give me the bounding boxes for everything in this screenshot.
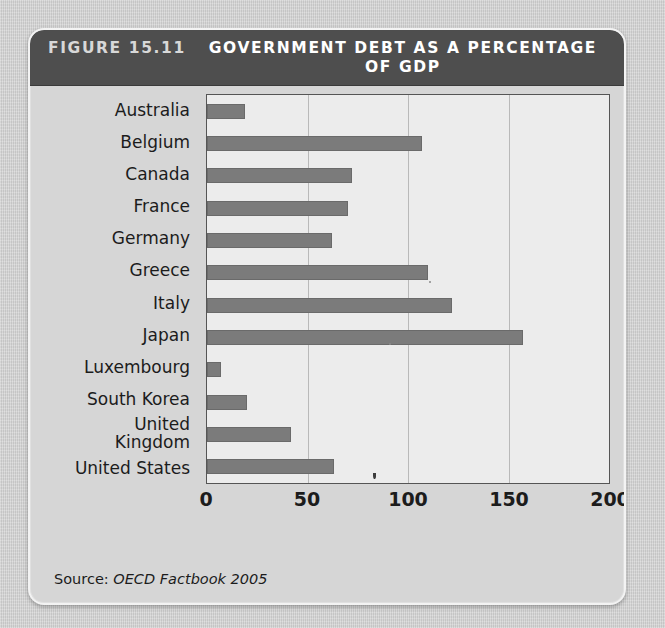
bar-row [207, 354, 609, 386]
scan-speck-dot-2 [389, 343, 391, 345]
figure-title: GOVERNMENT DEBT AS A PERCENTAGE OF GDP [200, 39, 606, 78]
bar-chart: AustraliaBelgiumCanadaFranceGermanyGreec… [30, 94, 624, 524]
bar [207, 265, 428, 280]
category-label: Australia [30, 94, 202, 126]
bar [207, 168, 352, 183]
x-axis: 050100150200 [206, 486, 610, 518]
bar-row [207, 95, 609, 127]
bar [207, 330, 523, 345]
bar-row [207, 224, 609, 256]
category-label: Belgium [30, 126, 202, 158]
category-label: United Kingdom [30, 415, 202, 452]
category-label: Japan [30, 319, 202, 351]
bar [207, 233, 332, 248]
source-note: Source: OECD Factbook 2005 [54, 571, 268, 587]
bar [207, 459, 334, 474]
source-prefix: Source: [54, 571, 109, 587]
bar-row [207, 451, 609, 483]
figure-title-bar: FIGURE 15.11 GOVERNMENT DEBT AS A PERCEN… [30, 30, 624, 86]
category-label: Canada [30, 158, 202, 190]
category-label-column: AustraliaBelgiumCanadaFranceGermanyGreec… [30, 94, 202, 484]
figure-number-label: FIGURE 15.11 [48, 39, 186, 57]
bar-row [207, 127, 609, 159]
figure-panel: FIGURE 15.11 GOVERNMENT DEBT AS A PERCEN… [28, 28, 626, 605]
bar [207, 104, 245, 119]
bar-row [207, 192, 609, 224]
x-tick-label-50: 50 [294, 488, 320, 510]
bar-row [207, 257, 609, 289]
x-tick-label-100: 100 [388, 488, 428, 510]
bar [207, 427, 291, 442]
bar-row [207, 386, 609, 418]
x-tick-label-0: 0 [199, 488, 212, 510]
bar [207, 136, 422, 151]
category-label: France [30, 190, 202, 222]
x-tick-label-150: 150 [489, 488, 529, 510]
bar-row [207, 289, 609, 321]
source-citation: OECD Factbook 2005 [113, 571, 267, 587]
category-label: Germany [30, 222, 202, 254]
x-tick-label-200: 200 [590, 488, 626, 510]
bar [207, 201, 348, 216]
plot-area [206, 94, 610, 484]
category-label: South Korea [30, 383, 202, 415]
plot-area-wrapper [206, 94, 610, 484]
category-label: Luxembourg [30, 351, 202, 383]
category-label: Greece [30, 255, 202, 287]
bar [207, 298, 452, 313]
bar-row [207, 160, 609, 192]
scan-speck-dot [429, 281, 431, 283]
bar [207, 395, 247, 410]
category-label: United States [30, 452, 202, 484]
category-label: Italy [30, 287, 202, 319]
scan-speck-comma [373, 473, 376, 479]
figure-body: AustraliaBelgiumCanadaFranceGermanyGreec… [30, 86, 624, 603]
bar-row [207, 418, 609, 450]
bar [207, 362, 221, 377]
bar-row [207, 321, 609, 353]
